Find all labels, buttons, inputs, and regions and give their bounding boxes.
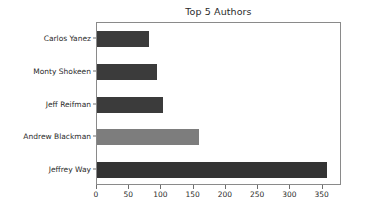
y-tick-mark: [93, 168, 97, 169]
y-tick-label: Carlos Yanez: [44, 34, 91, 43]
bar: [97, 97, 163, 113]
y-tick-mark: [93, 103, 97, 104]
x-axis: 050100150200250300350: [96, 185, 341, 215]
x-tick-label: 350: [314, 190, 328, 199]
x-tick-label: 100: [153, 190, 167, 199]
x-tick-mark: [257, 185, 258, 189]
x-tick-mark: [128, 185, 129, 189]
chart-figure: Top 5 Authors Carlos YanezMonty ShokeenJ…: [0, 0, 367, 220]
y-tick-mark: [93, 136, 97, 137]
x-tick-label: 0: [94, 190, 99, 199]
y-tick-label: Monty Shokeen: [33, 66, 91, 75]
x-tick-label: 50: [123, 190, 133, 199]
x-tick-label: 200: [218, 190, 232, 199]
x-tick-label: 300: [282, 190, 296, 199]
x-tick-mark: [322, 185, 323, 189]
bar: [97, 162, 327, 178]
x-tick-label: 250: [250, 190, 264, 199]
y-axis: Carlos YanezMonty ShokeenJeff ReifmanAnd…: [0, 22, 96, 185]
y-tick-label: Jeff Reifman: [46, 99, 91, 108]
bar: [97, 129, 199, 145]
plot-area: [96, 22, 341, 185]
y-tick-mark: [93, 70, 97, 71]
x-tick-mark: [289, 185, 290, 189]
y-tick-mark: [93, 38, 97, 39]
x-tick-mark: [96, 185, 97, 189]
x-tick-mark: [160, 185, 161, 189]
bar: [97, 64, 157, 80]
x-tick-mark: [225, 185, 226, 189]
chart-title: Top 5 Authors: [96, 6, 341, 17]
bars-layer: [97, 23, 340, 184]
x-tick-label: 150: [186, 190, 200, 199]
y-tick-label: Andrew Blackman: [23, 132, 91, 141]
x-tick-mark: [193, 185, 194, 189]
y-tick-label: Jeffrey Way: [49, 164, 91, 173]
bar: [97, 31, 149, 47]
